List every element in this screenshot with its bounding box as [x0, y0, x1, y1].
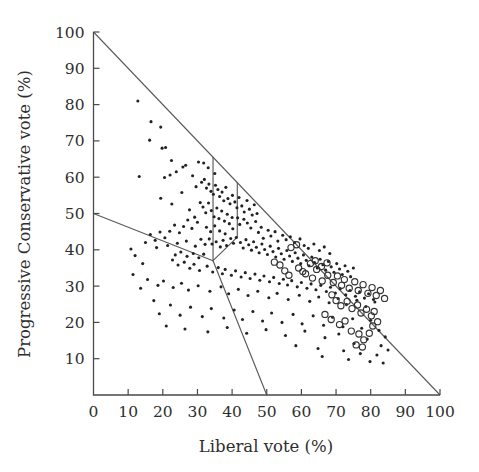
data-point-filled	[229, 237, 232, 240]
data-point-filled	[249, 226, 252, 229]
data-point-filled	[144, 241, 147, 244]
data-point-filled	[289, 235, 292, 238]
data-point-filled	[255, 212, 258, 215]
data-point-filled	[286, 283, 289, 286]
data-point-filled	[224, 232, 227, 235]
data-point-filled	[189, 306, 192, 309]
data-point-filled	[308, 300, 311, 303]
data-point-filled	[188, 267, 191, 270]
data-point-filled	[263, 248, 266, 251]
data-point-open	[322, 311, 328, 317]
x-axis-title: Liberal vote (%)	[199, 437, 333, 456]
data-points-layer	[129, 99, 389, 364]
data-point-filled	[342, 349, 345, 352]
data-point-filled	[255, 246, 258, 249]
data-point-filled	[131, 273, 134, 276]
data-point-filled	[346, 270, 349, 273]
data-point-filled	[283, 258, 286, 261]
data-point-filled	[185, 240, 188, 243]
data-point-filled	[197, 160, 200, 163]
data-point-filled	[199, 201, 202, 204]
data-point-filled	[373, 301, 376, 304]
data-point-filled	[276, 240, 279, 243]
data-point-filled	[164, 146, 167, 149]
data-point-filled	[182, 225, 185, 228]
data-point-filled	[330, 265, 333, 268]
data-point-filled	[222, 239, 225, 242]
data-point-filled	[172, 286, 175, 289]
y-tick-label: 40	[65, 241, 85, 259]
data-point-filled	[360, 327, 363, 330]
data-point-filled	[278, 282, 281, 285]
data-point-filled	[368, 360, 371, 363]
data-point-filled	[217, 266, 220, 269]
data-point-filled	[183, 261, 186, 264]
data-point-open	[355, 287, 361, 293]
data-point-filled	[359, 352, 362, 355]
data-point-filled	[386, 348, 389, 351]
data-point-filled	[294, 251, 297, 254]
data-point-open	[338, 303, 344, 309]
data-point-filled	[184, 164, 187, 167]
data-point-filled	[252, 240, 255, 243]
data-point-filled	[231, 216, 234, 219]
data-point-filled	[241, 318, 244, 321]
data-point-filled	[136, 99, 139, 102]
data-point-open	[349, 306, 355, 312]
data-point-open	[296, 265, 302, 271]
data-point-open	[324, 260, 330, 266]
data-point-filled	[233, 309, 236, 312]
x-tick-label: 0	[89, 403, 99, 421]
data-point-filled	[174, 253, 177, 256]
data-point-filled	[206, 330, 209, 333]
data-point-open	[319, 278, 325, 284]
data-point-filled	[207, 183, 210, 186]
data-point-filled	[163, 176, 166, 179]
data-point-filled	[187, 289, 190, 292]
data-point-filled	[285, 238, 288, 241]
data-point-open	[381, 295, 387, 301]
data-point-filled	[316, 347, 319, 350]
x-tick-label: 80	[361, 403, 381, 421]
data-point-filled	[234, 269, 237, 272]
data-point-filled	[212, 193, 215, 196]
data-point-filled	[251, 213, 254, 216]
data-point-filled	[247, 243, 250, 246]
data-point-filled	[251, 310, 254, 313]
data-point-filled	[226, 213, 229, 216]
data-point-filled	[248, 208, 251, 211]
data-point-filled	[245, 199, 248, 202]
data-point-open	[354, 302, 360, 308]
data-point-filled	[197, 256, 200, 259]
x-tick-label: 40	[222, 403, 242, 421]
data-point-filled	[296, 285, 299, 288]
data-point-filled	[195, 185, 198, 188]
data-point-filled	[328, 301, 331, 304]
x-tick-label: 30	[188, 403, 208, 421]
data-point-filled	[258, 251, 261, 254]
data-point-open	[375, 319, 381, 325]
data-point-filled	[199, 238, 202, 241]
data-point-filled	[197, 284, 200, 287]
data-point-open	[352, 279, 358, 285]
data-point-filled	[375, 354, 378, 357]
data-point-filled	[186, 218, 189, 221]
data-point-filled	[196, 221, 199, 224]
data-point-filled	[201, 315, 204, 318]
data-point-filled	[219, 245, 222, 248]
data-point-filled	[220, 209, 223, 212]
data-point-filled	[284, 334, 287, 337]
data-point-filled	[198, 269, 201, 272]
data-point-filled	[205, 187, 208, 190]
data-point-filled	[260, 242, 263, 245]
data-point-filled	[235, 206, 238, 209]
data-point-filled	[269, 234, 272, 237]
y-tick-label: 30	[65, 278, 85, 296]
data-point-open	[333, 298, 339, 304]
data-point-filled	[337, 332, 340, 335]
data-point-filled	[258, 279, 261, 282]
data-point-filled	[269, 245, 272, 248]
data-point-filled	[146, 278, 149, 281]
data-point-filled	[149, 233, 152, 236]
data-point-filled	[219, 285, 222, 288]
